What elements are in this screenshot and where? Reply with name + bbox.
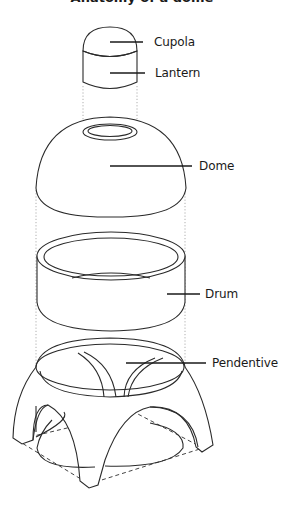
drum-shape — [37, 232, 185, 331]
cupola-lantern-shape — [83, 27, 137, 89]
pendentive-shape — [13, 338, 213, 488]
dome-shape — [36, 117, 186, 217]
label-drum: Drum — [205, 287, 238, 301]
label-cupola: Cupola — [154, 35, 195, 49]
label-pendentive: Pendentive — [212, 356, 278, 370]
label-dome: Dome — [199, 159, 234, 173]
dome-exploded-diagram — [0, 0, 284, 511]
label-lantern: Lantern — [155, 66, 200, 80]
